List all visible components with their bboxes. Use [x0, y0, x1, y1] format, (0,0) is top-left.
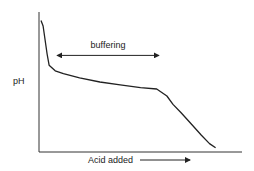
y-axis-label: pH — [13, 76, 25, 86]
buffering-label: buffering — [91, 40, 126, 50]
x-axis-label: Acid added — [88, 155, 133, 165]
titration-chart: pH Acid added buffering — [0, 0, 254, 171]
titration-curve-line — [41, 20, 216, 147]
